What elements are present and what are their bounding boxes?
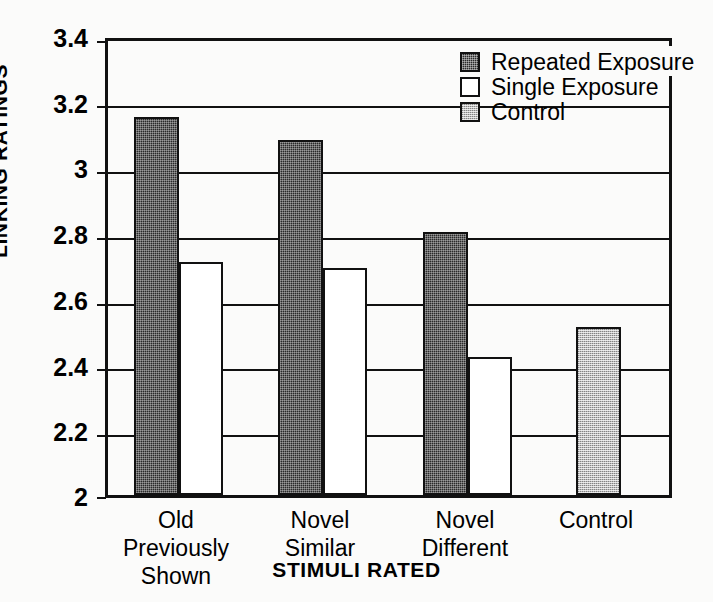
y-axis-tick-labels: 3.4 3.2 3 2.8 2.6 2.4 2.2 2	[0, 0, 98, 602]
bar-control	[576, 327, 621, 495]
y-tick-label: 3	[74, 155, 88, 184]
bar-single-exposure-old-previously-shown	[179, 262, 223, 495]
y-tickmark	[97, 435, 106, 437]
x-tick-label-novel-similar: Novel Similar	[285, 506, 355, 562]
legend-label: Control	[491, 101, 565, 124]
bar-repeated-exposure-novel-different	[423, 232, 468, 495]
y-tickmark	[97, 106, 106, 108]
legend-swatch-icon	[460, 77, 480, 97]
legend-swatch-icon	[460, 102, 480, 122]
y-tick-label: 2.6	[53, 287, 88, 316]
bar-repeated-exposure-novel-similar	[278, 140, 323, 495]
y-tick-label: 2	[74, 483, 88, 512]
bar-single-exposure-novel-similar	[323, 268, 367, 495]
x-axis-title: STIMULI RATED	[0, 558, 713, 582]
x-tick-label-control: Control	[559, 506, 633, 534]
legend: Repeated Exposure Single Exposure Contro…	[460, 50, 694, 125]
y-tick-label: 3.4	[53, 24, 88, 53]
legend-label: Single Exposure	[491, 76, 659, 99]
gridline-3-0	[108, 172, 669, 174]
y-tick-label: 2.2	[53, 418, 88, 447]
legend-item-repeated-exposure: Repeated Exposure	[460, 50, 694, 74]
legend-swatch-icon	[460, 52, 480, 72]
x-tick-label-novel-different: Novel Different	[422, 506, 509, 562]
y-tickmark	[97, 369, 106, 371]
y-tickmark	[97, 238, 106, 240]
y-tickmark	[97, 41, 106, 43]
gridline-2-8	[108, 238, 669, 240]
y-tick-label: 3.2	[53, 90, 88, 119]
legend-item-control: Control	[460, 100, 694, 124]
y-tick-label: 2.4	[53, 353, 88, 382]
legend-label: Repeated Exposure	[491, 51, 694, 74]
legend-item-single-exposure: Single Exposure	[460, 75, 694, 99]
bar-chart: LINKING RATINGS 3.4 3.2 3 2.8 2.6 2.4 2.…	[0, 0, 713, 602]
y-tick-label: 2.8	[53, 221, 88, 250]
y-tickmark	[97, 497, 106, 499]
y-tickmark	[97, 172, 106, 174]
y-tickmark	[97, 304, 106, 306]
bar-single-exposure-novel-different	[468, 357, 512, 495]
bar-repeated-exposure-old-previously-shown	[134, 117, 179, 495]
